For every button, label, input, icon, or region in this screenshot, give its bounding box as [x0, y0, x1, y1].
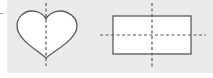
heart-shape [17, 11, 77, 58]
symmetry-diagram [0, 0, 213, 78]
heart-figure [17, 3, 77, 66]
rectangle-figure [100, 3, 206, 67]
